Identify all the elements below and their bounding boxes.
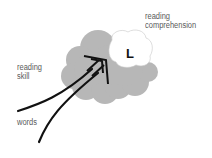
label-reading-skill: reading skill [17,63,42,81]
region-label-L: L [126,46,134,61]
label-words: words [17,118,37,127]
label-comprehension-line2: comprehension [145,21,196,30]
label-reading-comprehension: reading comprehension [145,12,196,30]
label-skill-line2: skill [17,72,42,81]
